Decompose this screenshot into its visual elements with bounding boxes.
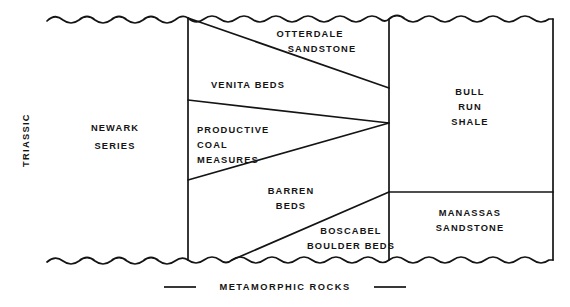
venita-beds-basal-contact bbox=[188, 100, 389, 123]
label-venita-beds: VENITA BEDS bbox=[211, 80, 285, 90]
lower-erosional-surface-wave bbox=[47, 257, 553, 264]
label-productive-coal-measures-line3: MEASURES bbox=[197, 155, 259, 165]
stratigraphic-diagram: NEWARK SERIES OTTERDALE SANDSTONE VENITA… bbox=[0, 0, 570, 307]
label-otterdale-sandstone-line1: OTTERDALE bbox=[276, 29, 343, 39]
label-manassas-sandstone-line1: MANASSAS bbox=[439, 208, 501, 218]
upper-erosional-surface-wave bbox=[47, 16, 553, 24]
label-barren-beds-line1: BARREN bbox=[268, 186, 315, 196]
label-bull-run-shale-line2: RUN bbox=[458, 102, 482, 112]
cross-section-svg: NEWARK SERIES OTTERDALE SANDSTONE VENITA… bbox=[0, 0, 570, 307]
label-newark-series-line1: NEWARK bbox=[91, 123, 139, 133]
label-newark-series-line2: SERIES bbox=[94, 141, 135, 151]
label-bull-run-shale-line3: SHALE bbox=[451, 117, 488, 127]
label-boscabel-boulder-beds-line1: BOSCABEL bbox=[320, 226, 381, 236]
label-productive-coal-measures-line2: COAL bbox=[197, 140, 228, 150]
label-boscabel-boulder-beds-line2: BOULDER BEDS bbox=[307, 241, 395, 251]
label-barren-beds-line2: BEDS bbox=[276, 201, 306, 211]
era-label-triassic: TRIASSIC bbox=[21, 113, 31, 167]
basement-caption: METAMORPHIC ROCKS bbox=[219, 282, 350, 292]
label-productive-coal-measures-line1: PRODUCTIVE bbox=[197, 125, 269, 135]
label-bull-run-shale-line1: BULL bbox=[455, 87, 484, 97]
label-manassas-sandstone-line2: SANDSTONE bbox=[436, 223, 505, 233]
label-otterdale-sandstone-line2: SANDSTONE bbox=[288, 44, 357, 54]
